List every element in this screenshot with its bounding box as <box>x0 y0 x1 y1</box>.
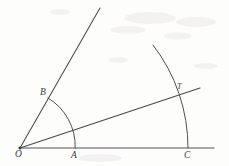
label-point-o: O <box>15 150 22 160</box>
label-point-c: C <box>184 151 190 161</box>
figure-canvas <box>0 0 229 166</box>
label-point-t: T <box>177 83 181 91</box>
label-point-b: B <box>40 88 46 98</box>
geometry-figure: O A B C T <box>0 0 229 166</box>
oblique-transversal-ray <box>20 88 200 148</box>
label-point-a: A <box>71 151 77 161</box>
large-compass-arc <box>153 45 188 148</box>
upper-steep-ray <box>20 8 100 148</box>
small-compass-arc <box>48 98 75 148</box>
